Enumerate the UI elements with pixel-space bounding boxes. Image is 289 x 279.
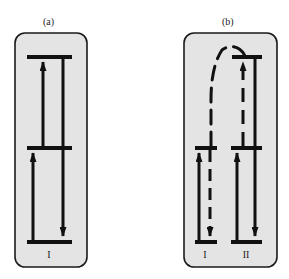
system-I-level-bottom	[195, 240, 217, 244]
level-bottom	[27, 240, 72, 244]
system-II-level-bottom	[231, 240, 262, 244]
system-label-II: II	[243, 249, 250, 260]
system-label-I: I	[47, 249, 50, 260]
system-II-level-top	[232, 55, 262, 59]
panel-a: I	[15, 33, 87, 267]
level-top	[27, 55, 72, 59]
system-II-level-middle	[231, 146, 262, 150]
system-label-I: I	[203, 249, 206, 260]
system-I-level-middle	[195, 146, 217, 150]
panel-b: I II	[184, 33, 277, 267]
level-middle	[27, 146, 72, 150]
